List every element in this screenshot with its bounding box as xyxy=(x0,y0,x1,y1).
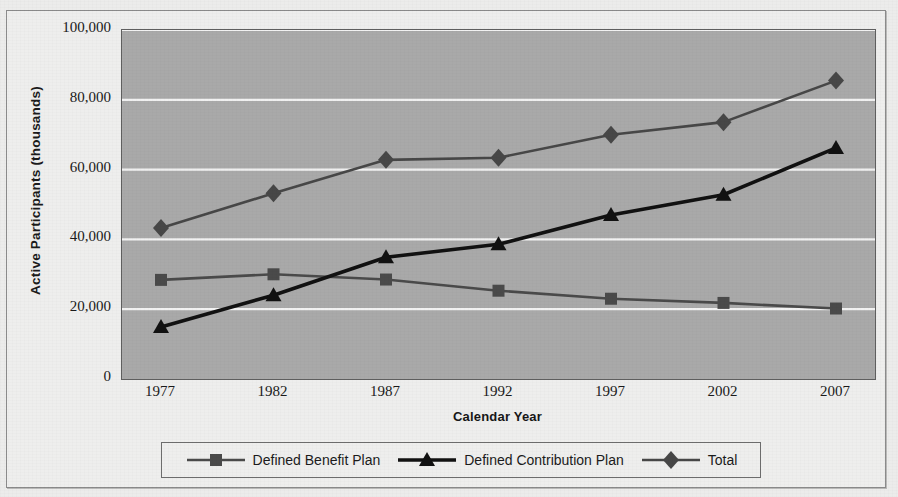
x-axis-tick-label: 2002 xyxy=(708,383,738,400)
series-1 xyxy=(155,268,842,314)
x-axis-title: Calendar Year xyxy=(121,409,874,424)
legend-square-icon xyxy=(185,450,247,470)
chart-figure: Active Participants (thousands) 020,0004… xyxy=(6,10,886,488)
data-point-marker xyxy=(716,113,732,131)
data-point-marker xyxy=(380,274,392,286)
legend-item-label: Defined Benefit Plan xyxy=(253,452,381,468)
data-point-marker xyxy=(603,126,619,144)
legend-item-label: Defined Contribution Plan xyxy=(464,452,624,468)
y-axis-tick-label: 60,000 xyxy=(27,159,111,176)
y-axis-tick-label: 80,000 xyxy=(27,89,111,106)
series-3 xyxy=(153,72,844,237)
data-point-marker xyxy=(605,293,617,305)
data-point-marker xyxy=(266,184,282,202)
data-point-marker xyxy=(268,268,280,280)
data-point-marker xyxy=(828,72,844,90)
legend-item-triangle[interactable]: Defined Contribution Plan xyxy=(396,450,624,470)
data-point-marker xyxy=(830,303,842,315)
y-axis-tick-label: 20,000 xyxy=(27,298,111,315)
x-axis-tick-label: 1977 xyxy=(145,383,175,400)
legend-diamond-icon xyxy=(640,450,702,470)
y-axis-tick-labels: 020,00040,00060,00080,000100,000 xyxy=(27,11,111,487)
chart-legend: Defined Benefit PlanDefined Contribution… xyxy=(161,442,761,478)
plot-area xyxy=(121,29,876,380)
legend-item-diamond[interactable]: Total xyxy=(640,450,738,470)
chart-plot-svg xyxy=(122,30,875,379)
data-point-marker xyxy=(828,140,844,154)
x-axis-tick-label: 1987 xyxy=(370,383,400,400)
y-axis-tick-label: 100,000 xyxy=(27,19,111,36)
data-point-marker xyxy=(663,451,679,469)
data-point-marker xyxy=(718,297,730,309)
x-axis-tick-label: 1997 xyxy=(595,383,625,400)
data-point-marker xyxy=(378,151,394,169)
legend-item-label: Total xyxy=(708,452,738,468)
x-axis-tick-label: 2007 xyxy=(820,383,850,400)
x-axis-tick-labels: 1977198219871992199720022007 xyxy=(121,383,874,407)
legend-item-square[interactable]: Defined Benefit Plan xyxy=(185,450,381,470)
data-point-marker xyxy=(491,149,507,167)
data-point-marker xyxy=(210,454,222,466)
y-axis-tick-label: 40,000 xyxy=(27,228,111,245)
data-point-marker xyxy=(153,219,169,237)
data-point-marker xyxy=(493,285,505,297)
data-point-marker xyxy=(155,274,167,286)
legend-triangle-icon xyxy=(396,450,458,470)
x-axis-tick-label: 1992 xyxy=(483,383,513,400)
screenshot-canvas: Active Participants (thousands) 020,0004… xyxy=(0,0,898,497)
x-axis-tick-label: 1982 xyxy=(258,383,288,400)
y-axis-tick-label: 0 xyxy=(27,368,111,385)
